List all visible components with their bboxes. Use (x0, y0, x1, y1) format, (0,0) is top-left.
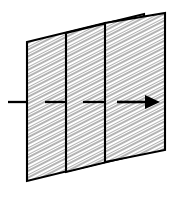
diagram-canvas (0, 0, 177, 202)
diagram-figure (0, 0, 177, 202)
plane-3 (105, 13, 165, 162)
plane-3-face (105, 13, 165, 162)
